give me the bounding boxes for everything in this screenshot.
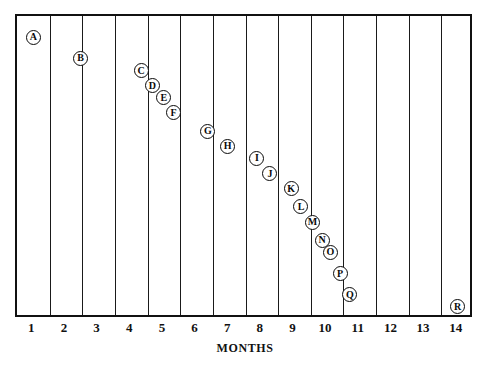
gridline-month-8 (246, 16, 247, 315)
data-point-p: P (333, 266, 348, 281)
x-tick-9: 9 (275, 320, 309, 336)
x-tick-2: 2 (47, 320, 81, 336)
data-point-c: C (134, 63, 149, 78)
data-point-a: A (26, 30, 41, 45)
scatter-plot-figure: ABCDEFGHIJKLMNOPQR 1234567891011121314 M… (0, 0, 490, 370)
data-point-f: F (166, 105, 181, 120)
x-axis-title: MONTHS (0, 341, 490, 356)
data-point-m: M (305, 215, 320, 230)
gridline-month-9 (278, 16, 279, 315)
x-axis-tick-labels: 1234567891011121314 (15, 320, 472, 340)
data-point-q: Q (342, 287, 357, 302)
gridline-month-4 (115, 16, 116, 315)
data-point-r: R (450, 299, 465, 314)
data-point-j: J (262, 166, 277, 181)
data-point-i: I (249, 151, 264, 166)
x-tick-13: 13 (406, 320, 440, 336)
data-point-h: H (220, 139, 235, 154)
x-tick-7: 7 (210, 320, 244, 336)
gridline-month-2 (50, 16, 51, 315)
data-point-l: L (293, 199, 308, 214)
x-tick-3: 3 (80, 320, 114, 336)
x-tick-5: 5 (145, 320, 179, 336)
x-tick-4: 4 (112, 320, 146, 336)
data-point-b: B (73, 51, 88, 66)
data-point-e: E (156, 90, 171, 105)
data-point-k: K (284, 181, 299, 196)
x-tick-12: 12 (373, 320, 407, 336)
gridline-month-14 (441, 16, 442, 315)
gridline-month-5 (148, 16, 149, 315)
gridline-month-12 (376, 16, 377, 315)
x-tick-11: 11 (341, 320, 375, 336)
gridline-month-13 (409, 16, 410, 315)
x-tick-6: 6 (178, 320, 212, 336)
x-tick-10: 10 (308, 320, 342, 336)
gridline-month-10 (311, 16, 312, 315)
gridline-month-7 (213, 16, 214, 315)
x-tick-14: 14 (439, 320, 473, 336)
x-tick-8: 8 (243, 320, 277, 336)
data-point-o: O (323, 245, 338, 260)
gridline-month-6 (180, 16, 181, 315)
plot-area: ABCDEFGHIJKLMNOPQR (15, 14, 472, 317)
x-tick-1: 1 (14, 320, 48, 336)
